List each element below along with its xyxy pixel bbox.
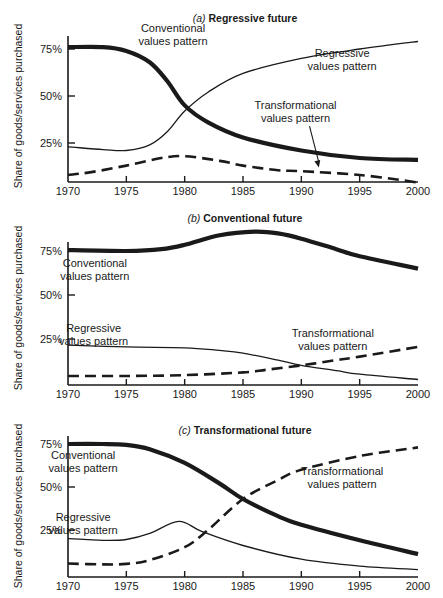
x-tick-label: 1970 (56, 580, 80, 592)
x-tick-label: 1995 (347, 185, 371, 197)
x-tick-label: 1980 (172, 388, 196, 400)
panel-title: (a) Regressive future (193, 12, 298, 24)
x-tick-label: 1970 (56, 388, 80, 400)
y-tick-label: 50% (40, 90, 62, 102)
x-tick-label: 2000 (406, 580, 430, 592)
series-annotation: Regressivevalues pattern (49, 511, 118, 536)
x-tick-label: 1995 (347, 580, 371, 592)
x-tick-label: 1985 (231, 388, 255, 400)
figure: (a) Regressive futureShare of goods/serv… (0, 0, 443, 598)
x-tick-label: 1990 (289, 185, 313, 197)
x-tick-label: 1980 (172, 580, 196, 592)
annotation-arrow (310, 126, 319, 162)
x-tick-label: 1980 (172, 185, 196, 197)
series-annotation: Regressivevalues pattern (59, 322, 128, 347)
x-tick-label: 1975 (114, 388, 138, 400)
series-annotation: Conventionalvalues pattern (138, 22, 207, 47)
y-tick-label: 50% (40, 289, 62, 301)
series-annotation: Regressivevalues pattern (308, 47, 377, 72)
panel-c-transformational-future: (c) Transformational futureShare of good… (12, 424, 430, 592)
y-tick-label: 50% (40, 481, 62, 493)
y-tick-label: 75% (40, 43, 62, 55)
y-axis-label: Share of goods/services purchased (12, 24, 24, 189)
series-annotation: Transformationalvalues pattern (254, 99, 336, 124)
x-tick-label: 1995 (347, 388, 371, 400)
regressive-values-pattern-line (68, 521, 418, 569)
x-tick-label: 1990 (289, 580, 313, 592)
series-annotation: Transformationalvalues pattern (292, 327, 374, 352)
arrowhead-icon (314, 160, 320, 167)
panel-a-regressive-future: (a) Regressive futureShare of goods/serv… (12, 12, 430, 197)
y-axis-label: Share of goods/services purchased (12, 424, 24, 589)
series-annotation: Conventionalvalues pattern (60, 257, 129, 282)
y-axis-label: Share of goods/services purchased (12, 226, 24, 391)
y-tick-label: 75% (40, 245, 62, 257)
x-tick-label: 2000 (406, 388, 430, 400)
x-tick-label: 1990 (289, 388, 313, 400)
panel-title: (c) Transformational future (178, 424, 311, 436)
x-tick-label: 1970 (56, 185, 80, 197)
x-tick-label: 1985 (231, 580, 255, 592)
panel-b-conventional-future: (b) Conventional futureShare of goods/se… (12, 212, 430, 400)
panel-title: (b) Conventional future (188, 212, 303, 224)
y-tick-label: 75% (40, 438, 62, 450)
x-tick-label: 1975 (114, 185, 138, 197)
x-tick-label: 1985 (231, 185, 255, 197)
series-annotation: Transformationalvalues pattern (301, 465, 383, 490)
series-annotation: Conventionalvalues pattern (49, 449, 118, 474)
x-tick-label: 1975 (114, 580, 138, 592)
x-tick-label: 2000 (406, 185, 430, 197)
y-tick-label: 25% (40, 137, 62, 149)
